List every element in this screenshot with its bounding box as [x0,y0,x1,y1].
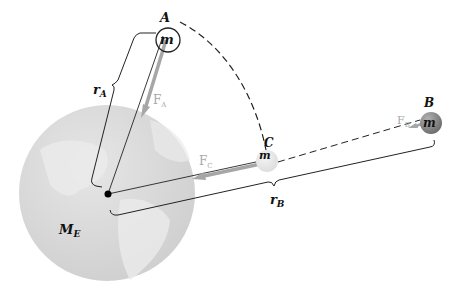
label-mass-a: m [160,32,174,47]
orbit-arc [180,22,266,150]
label-force-a: FA [153,93,167,109]
label-force-b: FB [397,114,410,129]
gravity-diagram: A m B m C m rA rB FA FC FB ME [0,0,450,298]
label-mass-b: m [423,116,436,130]
label-radius-b: rB [270,192,285,209]
label-point-b: B [423,96,434,110]
label-point-c: C [264,136,274,150]
label-point-a: A [158,10,170,25]
label-radius-a: rA [93,82,107,99]
label-force-c: FC [199,154,213,170]
label-mass-c: m [259,149,271,162]
earth-center-dot [105,191,112,198]
